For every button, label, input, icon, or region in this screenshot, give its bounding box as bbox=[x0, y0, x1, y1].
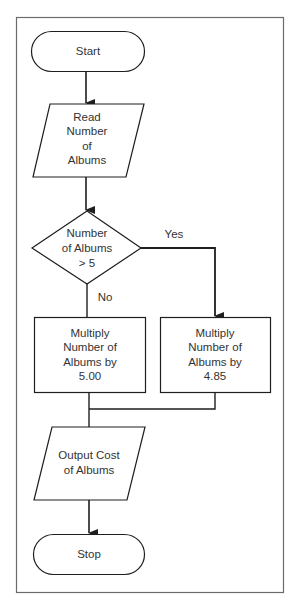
multiply-yes-line-4: 4.85 bbox=[204, 370, 226, 382]
stop-label: Stop bbox=[77, 548, 101, 560]
decision-line-2: of Albums bbox=[62, 242, 113, 254]
multiply-no-line-3: Albums by bbox=[63, 356, 117, 368]
no-label: No bbox=[98, 291, 113, 303]
multiply-no-line-4: 5.00 bbox=[79, 370, 101, 382]
decision-line-1: Number bbox=[67, 227, 108, 239]
multiply-no-line-1: Multiply bbox=[71, 327, 110, 339]
flowchart-canvas: Start Read Number of Albums Number of Al… bbox=[0, 0, 297, 600]
multiply-no-line-2: Number of bbox=[63, 341, 117, 353]
stop-terminal: Stop bbox=[34, 535, 145, 575]
output-line-1: Output Cost bbox=[58, 449, 120, 461]
read-input-parallelogram: Read Number of Albums bbox=[33, 104, 144, 177]
multiply-yes-line-3: Albums by bbox=[188, 356, 242, 368]
multiply-yes-line-2: Number of bbox=[188, 341, 242, 353]
read-line-3: of bbox=[82, 140, 92, 152]
read-line-2: Number bbox=[67, 125, 108, 137]
multiply-500-process: Multiply Number of Albums by 5.00 bbox=[35, 318, 146, 393]
multiply-485-process: Multiply Number of Albums by 4.85 bbox=[161, 318, 271, 393]
decision-diamond: Number of Albums > 5 bbox=[32, 211, 141, 284]
multiply-yes-line-1: Multiply bbox=[196, 327, 235, 339]
start-terminal: Start bbox=[32, 32, 145, 72]
output-line-2: of Albums bbox=[64, 464, 115, 476]
yes-label: Yes bbox=[165, 228, 184, 240]
read-line-1: Read bbox=[73, 111, 101, 123]
read-line-4: Albums bbox=[68, 154, 107, 166]
start-label: Start bbox=[76, 45, 101, 57]
merge-connector bbox=[89, 392, 215, 409]
output-parallelogram: Output Cost of Albums bbox=[34, 427, 145, 500]
yes-branch-connector bbox=[141, 248, 215, 316]
decision-line-3: > 5 bbox=[79, 257, 95, 269]
